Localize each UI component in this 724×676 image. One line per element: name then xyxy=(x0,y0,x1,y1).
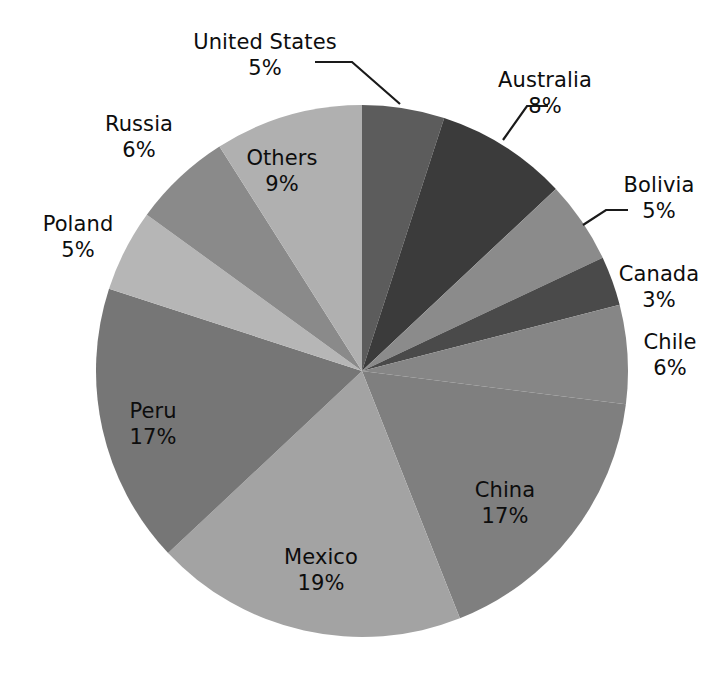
slice-label-pct-mexico: 19% xyxy=(256,571,386,597)
slice-label-pct-russia: 6% xyxy=(78,138,200,164)
slice-label-mexico: Mexico 19% xyxy=(256,545,386,596)
slice-label-name-others: Others xyxy=(220,146,344,172)
slice-label-australia: Australia 8% xyxy=(480,68,610,119)
slice-label-name-united-states: United States xyxy=(170,30,360,56)
slice-label-chile: Chile 6% xyxy=(620,330,720,381)
slice-label-name-russia: Russia xyxy=(78,112,200,138)
pie-chart-figure: United States 5% Australia 8% Bolivia 5%… xyxy=(0,0,724,676)
slice-label-pct-china: 17% xyxy=(450,504,560,530)
slice-label-pct-chile: 6% xyxy=(620,356,720,382)
slice-label-canada: Canada 3% xyxy=(600,262,718,313)
slice-label-pct-bolivia: 5% xyxy=(604,199,714,225)
slice-label-pct-peru: 17% xyxy=(98,425,208,451)
slice-label-others: Others 9% xyxy=(220,146,344,197)
slice-label-pct-canada: 3% xyxy=(600,288,718,314)
slice-label-pct-others: 9% xyxy=(220,172,344,198)
slice-label-name-mexico: Mexico xyxy=(256,545,386,571)
slice-label-pct-poland: 5% xyxy=(18,238,138,264)
slice-label-pct-australia: 8% xyxy=(480,94,610,120)
slice-label-name-poland: Poland xyxy=(18,212,138,238)
slice-label-poland: Poland 5% xyxy=(18,212,138,263)
slice-label-bolivia: Bolivia 5% xyxy=(604,173,714,224)
slice-label-name-chile: Chile xyxy=(620,330,720,356)
slice-label-united-states: United States 5% xyxy=(170,30,360,81)
slice-label-name-china: China xyxy=(450,478,560,504)
slice-label-name-canada: Canada xyxy=(600,262,718,288)
slice-label-name-australia: Australia xyxy=(480,68,610,94)
slice-label-name-bolivia: Bolivia xyxy=(604,173,714,199)
slice-label-pct-united-states: 5% xyxy=(170,56,360,82)
slice-label-peru: Peru 17% xyxy=(98,399,208,450)
slice-label-russia: Russia 6% xyxy=(78,112,200,163)
slice-label-china: China 17% xyxy=(450,478,560,529)
slice-label-name-peru: Peru xyxy=(98,399,208,425)
